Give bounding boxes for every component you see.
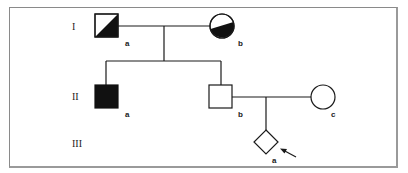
label-II-c: c	[331, 110, 336, 119]
pedigree-chart: I II III a b a b c a	[0, 0, 408, 173]
individual-II-a	[95, 85, 118, 108]
generation-label-1: I	[72, 21, 75, 32]
label-II-b: b	[238, 110, 243, 119]
generation-label-2: II	[72, 91, 79, 102]
individual-III-a	[254, 130, 278, 154]
label-II-a: a	[125, 110, 130, 119]
individual-I-a	[95, 14, 118, 37]
label-I-b: b	[238, 39, 243, 48]
individual-I-b	[210, 14, 234, 38]
individual-II-c	[311, 85, 335, 109]
individual-II-b	[209, 85, 232, 108]
label-I-a: a	[125, 39, 130, 48]
generation-label-3: III	[72, 138, 82, 149]
label-III-a: a	[272, 156, 277, 165]
proband-arrow-icon	[280, 149, 296, 158]
